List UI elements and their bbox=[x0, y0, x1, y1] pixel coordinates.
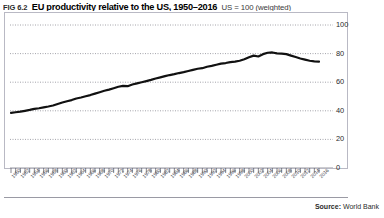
source-name: World Bank bbox=[343, 203, 379, 210]
figure-title-row: FIG 6.2 EU productivity relative to the … bbox=[3, 0, 384, 11]
chart-canvas bbox=[5, 13, 347, 168]
figure-subtitle: US = 100 (weighted) bbox=[222, 3, 291, 11]
figure-number: FIG 6.2 bbox=[3, 3, 27, 11]
source-label: Source: bbox=[315, 203, 341, 210]
y-tick-label: 40 bbox=[336, 107, 344, 115]
y-tick-label: 100 bbox=[336, 21, 348, 29]
data-line bbox=[11, 52, 319, 112]
plot-area bbox=[5, 13, 347, 168]
footer-rule bbox=[4, 197, 348, 198]
y-tick-label: 60 bbox=[336, 78, 344, 86]
y-tick-label: 80 bbox=[336, 50, 344, 58]
y-tick-label: 20 bbox=[336, 135, 344, 143]
source-note: Source: World Bank bbox=[315, 203, 379, 210]
figure-root: FIG 6.2 EU productivity relative to the … bbox=[0, 0, 384, 218]
figure-title: EU productivity relative to the US, 1950… bbox=[32, 2, 217, 11]
